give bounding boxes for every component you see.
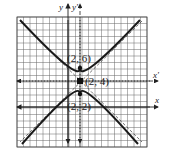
vertex-lower-label: (2, 2): [67, 100, 91, 113]
vertex-upper-label: (2, 6): [67, 52, 91, 65]
x-prime-axis-label: x': [152, 70, 160, 80]
center-point: [77, 78, 83, 84]
hyperbola-diagram: (2, 6) (2, 4) (2, 2) y y' x x': [0, 0, 170, 155]
vertex-lower: [78, 92, 82, 96]
y-axis-label: y: [58, 2, 63, 12]
center-label: (2, 4): [85, 75, 109, 88]
y-prime-axis-label: y': [71, 2, 79, 12]
vertex-upper: [78, 66, 82, 70]
x-axis-label: x: [154, 95, 159, 105]
